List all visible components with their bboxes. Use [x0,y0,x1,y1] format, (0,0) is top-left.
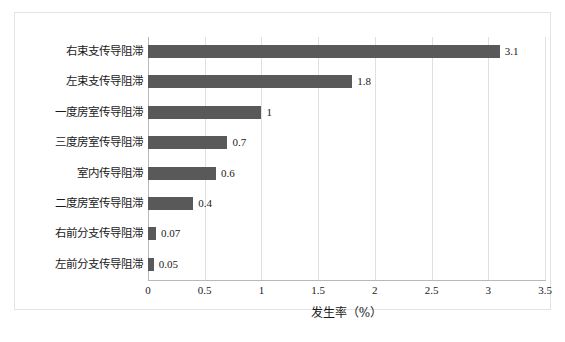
chart-frame: 右束支传导阻滞左束支传导阻滞一度房室传导阻滞三度房室传导阻滞室内传导阻滞二度房室… [14,12,551,310]
category-label: 三度房室传导阻滞 [21,128,143,157]
bar-row: 0.7 [148,128,545,157]
x-tick-label: 2.5 [425,284,439,296]
x-tick-label: 1 [259,284,265,296]
bar-row: 0.4 [148,189,545,218]
bar[interactable] [148,75,352,88]
gridline [545,37,546,280]
bar[interactable] [148,197,193,210]
bar-value-label: 0.7 [232,133,246,152]
category-label: 左前分支传导阻滞 [21,250,143,279]
bar[interactable] [148,45,500,58]
x-tick-label: 3 [486,284,492,296]
category-label: 二度房室传导阻滞 [21,189,143,218]
bar-value-label: 1 [266,103,272,122]
bar-value-label: 3.1 [505,42,519,61]
x-axis-title: 发生率（%） [148,303,545,320]
bar-value-label: 0.05 [159,255,178,274]
bar[interactable] [148,167,216,180]
x-tick-label: 0.5 [198,284,212,296]
bar[interactable] [148,106,261,119]
category-label: 室内传导阻滞 [21,159,143,188]
x-tick-label: 0 [145,284,151,296]
category-axis-labels: 右束支传导阻滞左束支传导阻滞一度房室传导阻滞三度房室传导阻滞室内传导阻滞二度房室… [15,37,143,280]
bar-row: 1.8 [148,67,545,96]
x-tick-label: 2 [372,284,378,296]
bar[interactable] [148,136,227,149]
category-label: 右前分支传导阻滞 [21,219,143,248]
bar[interactable] [148,258,154,271]
bar-row: 1 [148,98,545,127]
bar[interactable] [148,227,156,240]
bar-row: 0.07 [148,219,545,248]
bar-value-label: 0.07 [161,224,180,243]
x-tick-label: 3.5 [538,284,552,296]
bar-row: 0.6 [148,159,545,188]
bars-layer: 3.11.810.70.60.40.070.05 [148,37,545,280]
bar-value-label: 0.6 [221,164,235,183]
figure-container: 右束支传导阻滞左束支传导阻滞一度房室传导阻滞三度房室传导阻滞室内传导阻滞二度房室… [0,0,565,342]
category-label: 左束支传导阻滞 [21,67,143,96]
bar-row: 3.1 [148,37,545,66]
x-axis-line [148,280,546,281]
x-tick-label: 1.5 [311,284,325,296]
bar-value-label: 1.8 [357,72,371,91]
category-label: 一度房室传导阻滞 [21,98,143,127]
bar-value-label: 0.4 [198,194,212,213]
category-label: 右束支传导阻滞 [21,37,143,66]
bar-row: 0.05 [148,250,545,279]
